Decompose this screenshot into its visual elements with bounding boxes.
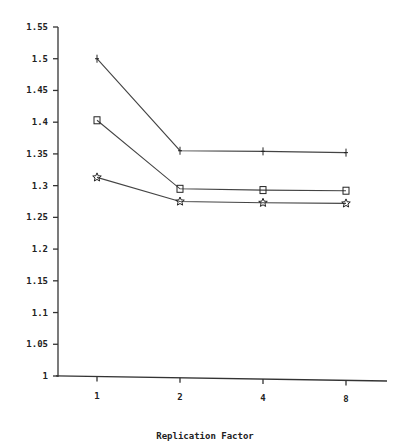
y-tick-label: 1.15 (26, 276, 48, 286)
y-tick-label: 1.45 (26, 85, 48, 95)
y-tick-label: 1.05 (26, 339, 48, 349)
data-point-plus (95, 55, 99, 63)
series-line-plus (97, 59, 346, 153)
series-group (93, 55, 351, 207)
data-point-star (93, 173, 102, 181)
y-axis: 11.051.11.151.21.251.31.351.41.451.51.55 (26, 22, 58, 381)
data-point-plus (261, 147, 265, 155)
series-square (94, 117, 349, 194)
chart: 11.051.11.151.21.251.31.351.41.451.51.55… (0, 0, 406, 445)
x-tick-label: 4 (260, 393, 266, 403)
y-tick-label: 1 (43, 371, 48, 381)
y-tick-label: 1.55 (26, 22, 48, 32)
x-axis-line (56, 376, 387, 381)
y-tick-label: 1.4 (32, 117, 49, 127)
x-tick-label: 8 (343, 394, 348, 404)
x-axis: 1248 (56, 376, 387, 404)
series-line-square (97, 120, 346, 190)
x-axis-title: Replication Factor (156, 431, 254, 441)
y-tick-label: 1.2 (32, 244, 48, 254)
y-tick-label: 1.25 (26, 212, 48, 222)
y-tick-label: 1.5 (32, 54, 48, 64)
series-plus (95, 55, 348, 157)
x-tick-label: 1 (94, 391, 99, 401)
y-tick-label: 1.3 (32, 181, 48, 191)
x-tick-label: 2 (177, 392, 182, 402)
data-point-plus (178, 147, 182, 155)
y-tick-label: 1.1 (32, 308, 48, 318)
y-tick-label: 1.35 (26, 149, 48, 159)
data-point-plus (344, 149, 348, 157)
